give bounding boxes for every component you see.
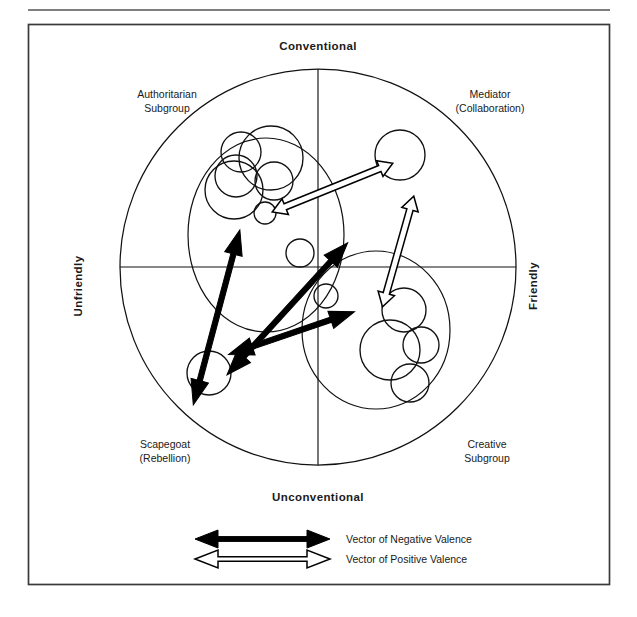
legend-label-negative-valence: Vector of Negative Valence — [346, 533, 472, 545]
axis-label-left: Unfriendly — [72, 255, 84, 316]
group-dynamics-diagram: Conventional Unconventional Unfriendly F… — [0, 0, 637, 617]
quadrant-label-line1: Creative — [467, 438, 506, 450]
quadrant-label-line2: Subgroup — [144, 102, 190, 114]
axis-label-right: Friendly — [527, 262, 539, 310]
axis-label-top: Conventional — [279, 40, 357, 52]
quadrant-label-line2: (Rebellion) — [140, 452, 191, 464]
quadrant-label-line2: Subgroup — [464, 452, 510, 464]
quadrant-label-line1: Mediator — [470, 88, 511, 100]
quadrant-label-line1: Authoritarian — [137, 88, 197, 100]
figure-container: Conventional Unconventional Unfriendly F… — [0, 0, 637, 617]
axis-label-bottom: Unconventional — [272, 491, 364, 503]
quadrant-label-line2: (Collaboration) — [456, 102, 525, 114]
quadrant-label-line1: Scapegoat — [140, 438, 190, 450]
legend-label-positive-valence: Vector of Positive Valence — [346, 553, 467, 565]
